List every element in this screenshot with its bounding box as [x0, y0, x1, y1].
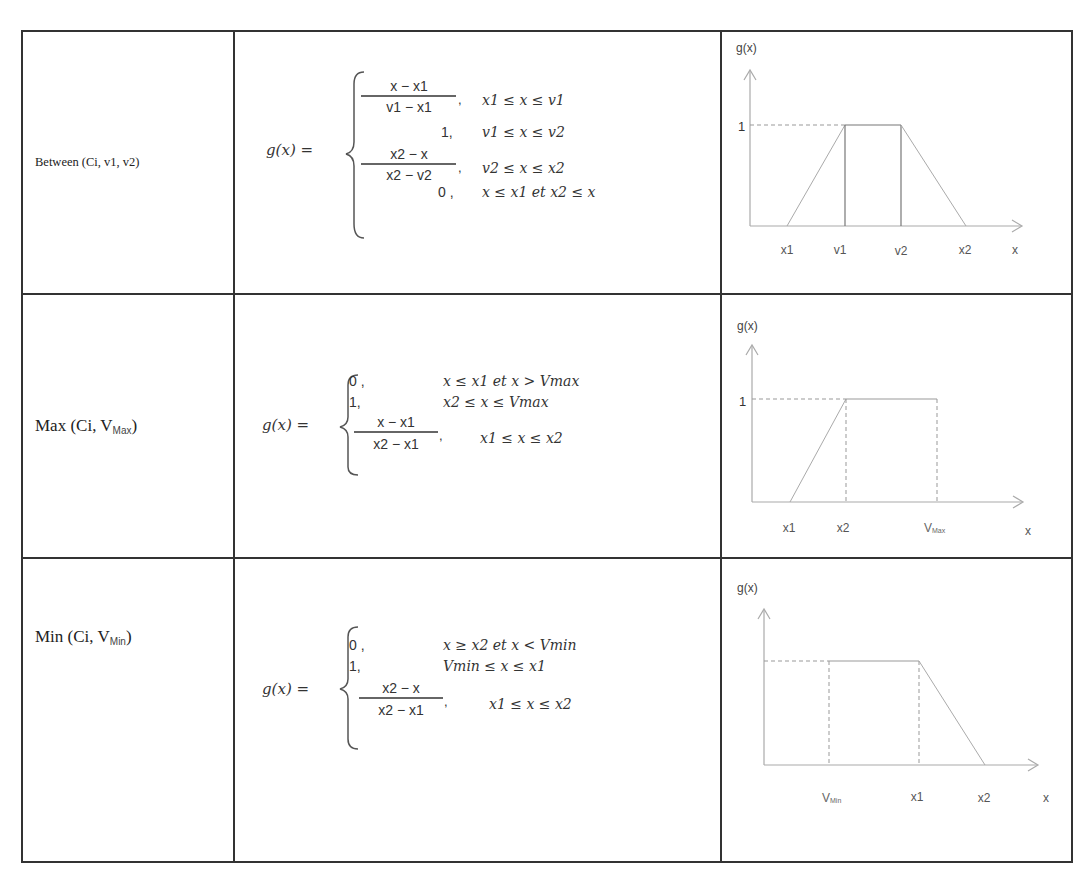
- x-label-x: x: [1043, 791, 1049, 805]
- case2-condition: Vmin ≤ x ≤ x1: [443, 658, 546, 674]
- x-label-vmin: VMin: [822, 791, 841, 805]
- vmax-letter: V: [924, 521, 932, 535]
- case3-condition: x1 ≤ x ≤ x2: [489, 696, 572, 712]
- y-axis-label: g(x): [737, 581, 758, 595]
- case1-value: 0 ,: [349, 637, 365, 653]
- case1-condition: x1 ≤ x ≤ v1: [482, 92, 565, 108]
- case3-denominator: x2 − v2: [386, 167, 432, 183]
- falling-edge: [919, 661, 985, 765]
- vmin-subscript: Min: [830, 797, 841, 804]
- row-between-formula: g(x) = x − x1 v1 − x1 , x1 ≤ x ≤ v1 1, v…: [236, 32, 721, 293]
- x-label-x2: x2: [959, 243, 972, 257]
- level-one-label: 1: [739, 394, 746, 409]
- graph-max: g(x) 1 x1 x2 VMax x: [723, 295, 1071, 557]
- case1-numerator: x − x1: [390, 78, 428, 94]
- case3-numerator: x2 − x: [382, 680, 420, 696]
- case3-denominator: x2 − x1: [378, 702, 424, 718]
- comma: ,: [439, 428, 443, 443]
- rising-edge: [790, 399, 846, 502]
- table-border-bottom: [21, 861, 1073, 863]
- x-label-x: x: [1025, 524, 1031, 538]
- y-axis-label: g(x): [737, 319, 758, 333]
- row-between-graph: g(x) 1 x1 v1 v2 x2 x: [723, 32, 1071, 293]
- left-brace-icon: [346, 72, 364, 238]
- x-label-vmax: VMax: [924, 521, 946, 535]
- level-one-label: 1: [738, 119, 745, 134]
- case4-condition: x ≤ x1 et x2 ≤ x: [482, 184, 596, 200]
- left-brace-icon: [340, 375, 358, 475]
- x-label-x2: x2: [837, 521, 850, 535]
- x-label-x1: x1: [783, 521, 796, 535]
- row-min-formula: g(x) = 0 , x ≥ x2 et x < Vmin 1, Vmin ≤ …: [236, 559, 721, 861]
- falling-edge: [901, 125, 966, 226]
- formula-lhs: g(x) =: [262, 416, 309, 434]
- x-label-x1: x1: [781, 243, 794, 257]
- case2-value: 1,: [349, 394, 361, 410]
- row-min-graph: g(x) VMin x1 x2 x: [723, 559, 1071, 861]
- vmin-letter: V: [822, 791, 830, 805]
- function-name-min: Min (Ci, VMin): [23, 627, 132, 647]
- graph-min: g(x) VMin x1 x2 x: [723, 559, 1071, 861]
- formula-min: g(x) = 0 , x ≥ x2 et x < Vmin 1, Vmin ≤ …: [236, 559, 721, 861]
- formula-between: g(x) = x − x1 v1 − x1 , x1 ≤ x ≤ v1 1, v…: [236, 32, 721, 293]
- formula-max: g(x) = 0 , x ≤ x1 et x > Vmax 1, x2 ≤ x …: [236, 295, 721, 557]
- case3-denominator: x2 − x1: [373, 436, 419, 452]
- name-text: Min (Ci, V: [35, 627, 110, 646]
- case1-value: 0 ,: [349, 373, 365, 389]
- case3-numerator: x2 − x: [390, 146, 428, 162]
- case1-condition: x ≤ x1 et x > Vmax: [443, 373, 579, 389]
- case1-condition: x ≥ x2 et x < Vmin: [443, 637, 577, 653]
- comma: ,: [444, 694, 448, 709]
- x-label-v1: v1: [834, 243, 847, 257]
- case3-numerator: x − x1: [377, 414, 415, 430]
- case2-value: 1,: [349, 658, 361, 674]
- formula-lhs: g(x) =: [262, 680, 309, 698]
- vmax-subscript: Max: [932, 527, 946, 534]
- x-label-x1: x1: [911, 790, 924, 804]
- formula-lhs: g(x) =: [266, 141, 313, 159]
- comma: ,: [458, 92, 462, 107]
- rising-edge: [787, 125, 845, 226]
- name-subscript: Max: [113, 425, 132, 436]
- row-between-name-cell: Between (Ci, v1, v2): [23, 32, 234, 293]
- row-min-name-cell: Min (Ci, VMin): [23, 559, 234, 861]
- name-suffix: ): [132, 416, 138, 435]
- case1-denominator: v1 − x1: [386, 99, 432, 115]
- case4-value: 0 ,: [438, 184, 454, 200]
- graph-between: g(x) 1 x1 v1 v2 x2 x: [723, 32, 1071, 293]
- table-border-right: [1071, 30, 1073, 863]
- x-label-v2: v2: [895, 244, 908, 258]
- function-name-between: Between (Ci, v1, v2): [23, 155, 140, 170]
- x-label-x2: x2: [978, 791, 991, 805]
- row-max-formula: g(x) = 0 , x ≤ x1 et x > Vmax 1, x2 ≤ x …: [236, 295, 721, 557]
- row-max-name-cell: Max (Ci, VMax): [23, 295, 234, 557]
- case2-value: 1,: [441, 124, 453, 140]
- case3-condition: x1 ≤ x ≤ x2: [480, 430, 563, 446]
- y-axis-label: g(x): [736, 41, 757, 55]
- comma: ,: [458, 160, 462, 175]
- row-max-graph: g(x) 1 x1 x2 VMax x: [723, 295, 1071, 557]
- name-suffix: ): [126, 627, 132, 646]
- case2-condition: x2 ≤ x ≤ Vmax: [443, 394, 549, 410]
- case3-condition: v2 ≤ x ≤ x2: [482, 160, 565, 176]
- name-subscript: Min: [110, 636, 126, 647]
- function-name-max: Max (Ci, VMax): [23, 416, 137, 436]
- case2-condition: v1 ≤ x ≤ v2: [482, 124, 565, 140]
- name-text: Max (Ci, V: [35, 416, 113, 435]
- x-label-x: x: [1012, 243, 1018, 257]
